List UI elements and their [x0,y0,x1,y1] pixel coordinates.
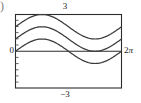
axis-label-right-2pi: 2π [124,45,141,55]
corner-partial-glyph: ) [0,0,8,13]
solution-curve [16,27,122,52]
axis-label-bottom-minus-3: −3 [55,89,75,99]
axis-label-origin-zero: 0 [4,45,14,55]
plot-figure: ) 3 −3 0 2π [0,0,141,103]
plot-canvas [0,0,141,103]
solution-curves [16,15,122,64]
solution-curve [16,15,122,40]
axis-label-top-3: 3 [57,1,73,11]
pi-symbol: π [129,45,134,55]
